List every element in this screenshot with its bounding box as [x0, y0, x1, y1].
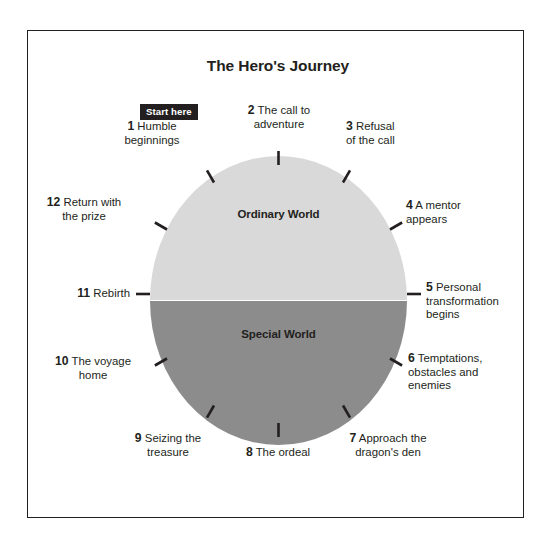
step-10-number: 10 [55, 354, 69, 368]
step-9-line2: treasure [110, 446, 226, 460]
step-6-line2: obstacles and [408, 366, 536, 380]
step-6-label: 6 Temptations, obstacles and enemies [408, 352, 536, 393]
step-4-label: 4 A mentor appears [406, 199, 526, 226]
step-3-label: 3 Refusal of the call [346, 120, 466, 147]
step-7-label: 7 Approach the dragon's den [328, 432, 448, 459]
step-7-line1: Approach the [359, 432, 427, 444]
step-5-line2: transformation [426, 295, 554, 309]
special-world-slice [150, 301, 407, 445]
step-8-number: 8 [246, 445, 253, 459]
step-11-number: 11 [77, 286, 90, 300]
step-12-line1: Return with [64, 196, 122, 208]
step-4-line1: A mentor [415, 199, 461, 211]
step-12-number: 12 [47, 195, 61, 209]
step-2-label: 2 The call to adventure [212, 104, 346, 131]
ordinary-world-label: Ordinary World [150, 208, 407, 220]
step-10-line1: The voyage [72, 355, 132, 367]
step-11-label: 11 Rebirth [18, 287, 130, 301]
step-12-line2: the prize [24, 210, 144, 224]
start-here-badge: Start here [140, 104, 198, 120]
step-7-line2: dragon's den [328, 446, 448, 460]
step-4-line2: appears [406, 213, 526, 227]
special-world-label: Special World [150, 328, 407, 340]
special-world-half [150, 301, 407, 445]
step-6-number: 6 [408, 351, 415, 365]
step-4-number: 4 [406, 198, 413, 212]
step-9-label: 9 Seizing the treasure [110, 432, 226, 459]
step-2-number: 2 [248, 103, 255, 117]
hero-journey-poster: The Hero's Journey Ordinary World Specia… [0, 0, 556, 546]
ordinary-world-slice [150, 156, 407, 300]
step-11-line1: Rebirth [93, 287, 130, 299]
page-title: The Hero's Journey [0, 57, 556, 75]
step-9-line1: Seizing the [145, 432, 201, 444]
step-1-label: 1 Humble beginnings [96, 120, 208, 147]
step-2-line1: The call to [258, 104, 311, 116]
step-3-line2: of the call [346, 134, 466, 148]
step-6-line3: enemies [408, 379, 536, 393]
step-5-number: 5 [426, 280, 433, 294]
step-8-line1: The ordeal [256, 446, 310, 458]
step-1-line2: beginnings [96, 134, 208, 148]
step-3-line1: Refusal [356, 120, 395, 132]
step-2-line2: adventure [212, 118, 346, 132]
step-5-line1: Personal [436, 281, 481, 293]
step-6-line1: Temptations, [418, 352, 483, 364]
step-10-line2: home [34, 369, 152, 383]
ordinary-world-half [150, 156, 407, 300]
step-9-number: 9 [135, 431, 142, 445]
step-5-line3: begins [426, 308, 554, 322]
step-10-label: 10 The voyage home [34, 355, 152, 382]
step-12-label: 12 Return with the prize [24, 196, 144, 223]
step-5-label: 5 Personal transformation begins [426, 281, 554, 322]
step-7-number: 7 [349, 431, 356, 445]
journey-wheel: Ordinary World Special World [150, 156, 407, 445]
step-1-line1: Humble [137, 120, 176, 132]
step-8-label: 8 The ordeal [218, 446, 338, 460]
step-1-number: 1 [127, 119, 134, 133]
step-3-number: 3 [346, 119, 353, 133]
